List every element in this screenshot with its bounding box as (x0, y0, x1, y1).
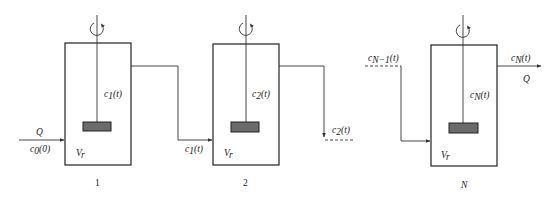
inlet-flow-label: Q (36, 127, 43, 137)
connection-n-minus-1-in: cN−1(t) (365, 53, 430, 141)
tank-n-vessel (431, 45, 497, 166)
inlet-conc-label: c0(0) (30, 144, 50, 156)
cstr-cascade-diagram: c1(t) Vr 1 Q c0(0) c1(t) c2(t) Vr 2 c2(t… (0, 0, 553, 200)
connection-1-2-label: c1(t) (185, 144, 203, 156)
tank-2: c2(t) Vr 2 (213, 15, 279, 188)
connection-1-2: c1(t) (131, 66, 212, 156)
outlet-flow-label: Q (523, 74, 530, 84)
tank-n: cN(t) Vr N (431, 15, 497, 190)
connection-n-minus-1-label: cN−1(t) (368, 53, 399, 65)
tank-n-index: N (460, 180, 468, 190)
tank-1: c1(t) Vr 1 (65, 15, 131, 188)
tank-2-index: 2 (243, 178, 248, 188)
connection-n-pipe (401, 66, 430, 141)
outlet-conc-label: cN(t) (511, 53, 531, 65)
inlet-stream: Q c0(0) (19, 127, 64, 156)
tank-2-impeller (231, 122, 259, 132)
tank-1-index: 1 (95, 178, 100, 188)
connection-1-2-pipe (131, 66, 212, 140)
tank-1-vessel (65, 43, 131, 165)
connection-2-label: c2(t) (332, 125, 350, 137)
tank-n-impeller (449, 123, 478, 133)
connection-2-out: c2(t) (279, 66, 353, 140)
connection-2-pipe (279, 66, 324, 137)
outlet-stream: cN(t) Q (497, 53, 541, 84)
tank-1-impeller (83, 122, 111, 131)
